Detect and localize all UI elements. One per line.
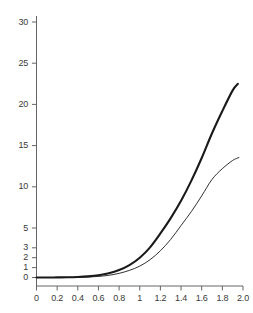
y-axis-tick-label: 2 [8, 253, 28, 262]
y-axis-tick-label: 1 [8, 263, 28, 272]
y-axis-tick-label: 5 [8, 224, 28, 233]
y-axis-tick-label: 25 [8, 59, 28, 68]
series-line-upper-curve [37, 84, 238, 278]
y-axis-tick-label: 30 [8, 18, 28, 27]
x-axis-tick-label: 2.0 [229, 294, 253, 303]
y-axis-tick-label: 10 [8, 182, 28, 191]
y-axis-tick-label: 3 [8, 243, 28, 252]
y-axis-tick-label: 20 [8, 100, 28, 109]
plot-area [0, 0, 253, 313]
y-axis-tick-label: 15 [8, 141, 28, 150]
y-axis-tick-label: 0 [8, 273, 28, 282]
chart-container: 012351015202530 00.20.40.60.811.21.41.61… [0, 0, 253, 313]
